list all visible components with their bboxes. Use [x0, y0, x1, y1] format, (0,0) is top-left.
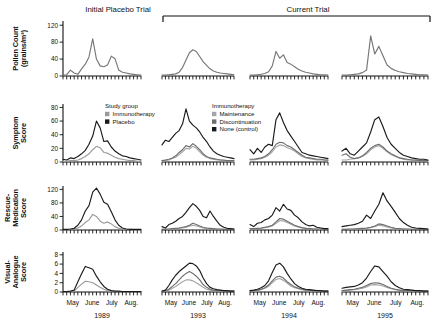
y-tick-label: 4	[54, 270, 58, 277]
x-axis-month-label: June	[272, 299, 287, 306]
row-1: Pollen Count(grains/m³)04080120	[11, 21, 428, 79]
y-tick-label: 0	[54, 226, 58, 233]
series-line	[250, 263, 328, 291]
y-tick-label: 0	[54, 158, 58, 165]
y-tick-label: 20	[51, 145, 59, 152]
x-axis-month-label: June	[367, 299, 382, 306]
y-tick-label: 40	[51, 131, 59, 138]
y-tick-label: 0	[54, 72, 58, 79]
x-axis-month-label: July	[293, 299, 305, 307]
x-axis-month-label: May	[165, 299, 178, 307]
x-axis-month-label: May	[347, 299, 360, 307]
panel-r3-1995	[342, 193, 428, 234]
legend-immunotherapy-title: Immunotherapy	[212, 102, 255, 109]
panel-r1-1993	[162, 50, 234, 80]
series-line	[63, 121, 141, 160]
x-axis-year-label-1994: 1994	[281, 312, 297, 319]
series-line	[63, 146, 141, 161]
series-line	[342, 193, 428, 229]
panel-r1-1989: 04080120	[47, 21, 141, 79]
legend-study-group: Study groupImmunotherapyPlacebo	[105, 102, 156, 125]
x-axis-month-label: July	[106, 299, 118, 307]
panel-r4-1995: MayJuneJulyAug.1995	[342, 266, 428, 319]
y-tick-label: 80	[51, 38, 59, 45]
figure-canvas: Initial Placebo TrialCurrent TrialPollen…	[0, 0, 437, 329]
panel-r2-1995	[342, 117, 428, 165]
y-tick-label: 6	[54, 260, 58, 267]
x-axis-month-label: Aug.	[124, 299, 138, 307]
series-line	[250, 276, 328, 291]
series-line	[162, 50, 234, 75]
panel-r1-1995	[342, 36, 428, 80]
legend-immunotherapy-swatch	[212, 119, 216, 123]
legend-immunotherapy-item-label: None (control)	[220, 125, 259, 132]
axis-label-row-3: Score	[19, 198, 28, 218]
x-axis-month-label: Aug.	[311, 299, 325, 307]
row-3: Rescue-MedicationScore04080120	[3, 186, 428, 234]
panel-r1-1994	[250, 51, 328, 79]
y-tick-label: 40	[51, 213, 59, 220]
panel-r4-1994: MayJuneJulyAug.1994	[250, 263, 328, 319]
figure-root: Initial Placebo TrialCurrent TrialPollen…	[0, 0, 437, 329]
x-axis-year-label-1989: 1989	[94, 312, 110, 319]
panel-r4-1989: 02468MayJuneJulyAug.1989	[54, 251, 141, 319]
x-axis-month-label: Aug.	[410, 299, 424, 307]
x-axis-year-label-1995: 1995	[377, 312, 393, 319]
panel-r3-1989: 04080120	[47, 186, 141, 234]
group-header-current-trial: Current Trial	[287, 5, 330, 14]
x-axis-month-label: July	[390, 299, 402, 307]
axis-label-row-4: Score	[19, 262, 28, 282]
legend-study-group-item-label: Immunotherapy	[113, 110, 156, 117]
legend-study-group-swatch	[105, 119, 109, 123]
panel-r3-1993	[162, 204, 234, 234]
panel-r3-1994	[250, 204, 328, 233]
legend-study-group-swatch	[105, 112, 109, 116]
legend-immunotherapy: ImmunotherapyMaintenanceDiscontinuationN…	[212, 102, 261, 132]
y-tick-label: 0	[54, 288, 58, 295]
series-line	[250, 113, 328, 159]
series-line	[342, 266, 428, 291]
legend-immunotherapy-item-label: Maintenance	[220, 110, 256, 117]
y-tick-label: 8	[54, 251, 58, 258]
y-tick-label: 60	[51, 117, 59, 124]
axis-label-row-1: (grains/m³)	[19, 29, 28, 67]
x-axis-month-label: June	[182, 299, 197, 306]
x-axis-month-label: June	[85, 299, 100, 306]
series-line	[342, 117, 428, 160]
series-line	[250, 51, 328, 75]
panel-r2-1994	[250, 113, 328, 166]
x-axis-month-label: July	[201, 299, 213, 307]
y-tick-label: 120	[47, 22, 58, 29]
panel-r4-1993: MayJuneJulyAug.1993	[162, 263, 234, 319]
y-tick-label: 40	[51, 55, 59, 62]
y-tick-label: 2	[54, 279, 58, 286]
series-line	[342, 36, 428, 75]
series-line	[162, 263, 234, 291]
series-line	[63, 39, 141, 75]
series-line	[250, 204, 328, 228]
y-tick-label: 80	[51, 199, 59, 206]
y-tick-label: 80	[51, 104, 59, 111]
row-4: Visual-AnalogueScore02468MayJuneJulyAug.…	[3, 251, 428, 319]
x-axis-month-label: May	[254, 299, 267, 307]
legend-immunotherapy-swatch	[212, 127, 216, 131]
series-line	[63, 188, 141, 229]
y-tick-label: 120	[47, 186, 58, 193]
x-axis-month-label: Aug.	[218, 299, 232, 307]
axis-label-row-2: Score	[19, 123, 28, 143]
legend-immunotherapy-swatch	[212, 112, 216, 116]
x-axis-year-label-1993: 1993	[190, 312, 206, 319]
legend-immunotherapy-item-label: Discontinuation	[220, 118, 262, 125]
legend-study-group-item-label: Placebo	[113, 118, 136, 125]
x-axis-month-label: May	[67, 299, 80, 307]
current-trial-bracket	[163, 16, 430, 22]
series-line	[162, 144, 234, 161]
legend-study-group-title: Study group	[105, 102, 138, 109]
group-header-initial-placebo-trial: Initial Placebo Trial	[85, 5, 151, 14]
